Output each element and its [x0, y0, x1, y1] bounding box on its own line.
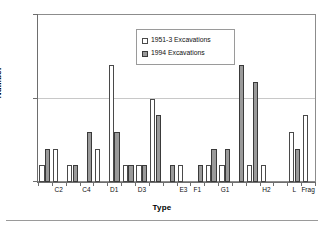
- x-tick-D2: [135, 182, 136, 186]
- bar-group: [107, 15, 121, 182]
- x-tick-label-H2: H2: [262, 187, 270, 194]
- legend-swatch-icon-series-1: [142, 51, 148, 57]
- x-tick-G1: [232, 182, 233, 186]
- bar-group: [66, 15, 80, 182]
- x-tick-F1: [204, 182, 205, 186]
- legend-swatch-icon-series-0: [142, 38, 148, 44]
- bar-E1-series-1: [156, 115, 161, 182]
- bar-D3-series-0: [136, 165, 141, 182]
- x-tick-origin: [38, 182, 39, 186]
- x-tick-label-C2: C2: [55, 187, 63, 194]
- legend-item-1994-excavations: 1994 Excavations: [142, 47, 229, 60]
- bar-L-series-1: [295, 149, 300, 182]
- bar-E1-series-0: [150, 99, 155, 183]
- bar-C3-series-0: [67, 165, 72, 182]
- bar-D2-series-0: [123, 165, 128, 182]
- bar-C1-series-1: [45, 149, 50, 182]
- x-tick-C2: [66, 182, 67, 186]
- y-tick-10: [33, 14, 37, 15]
- bar-group: [287, 15, 301, 182]
- bar-D1-series-0: [109, 65, 114, 182]
- x-tick-E2: [177, 182, 178, 186]
- x-tick-C4: [93, 182, 94, 186]
- x-tick-C5: [107, 182, 108, 186]
- x-tick-label-G1: G1: [221, 187, 230, 194]
- footer-divider: [6, 220, 318, 221]
- x-axis-title: Type: [0, 203, 324, 212]
- bar-G2-series-1: [239, 65, 244, 182]
- bar-C1-series-0: [39, 165, 44, 182]
- x-tick-label-D3: D3: [138, 187, 146, 194]
- bar-group: [80, 15, 94, 182]
- x-tick-label-L: L: [292, 187, 296, 194]
- bar-F2-series-1: [211, 149, 216, 182]
- bar-group: [38, 15, 52, 182]
- x-tick-H1: [260, 182, 261, 186]
- x-tick-label-Frag: Frag: [301, 187, 314, 194]
- bar-D2-series-1: [128, 165, 133, 182]
- bar-H1-series-0: [247, 165, 252, 182]
- bar-D1-series-1: [114, 132, 119, 182]
- bar-group: [93, 15, 107, 182]
- x-tick-D3: [149, 182, 150, 186]
- bar-D3-series-1: [142, 165, 147, 182]
- x-tick-container: [38, 182, 315, 187]
- bar-E3-series-0: [178, 165, 183, 182]
- y-axis-title: Number: [0, 67, 3, 98]
- x-tick-Frag: [315, 182, 316, 186]
- x-tick-H2: [273, 182, 274, 186]
- x-tick-C1: [52, 182, 53, 186]
- bar-group: [246, 15, 260, 182]
- bar-group: [52, 15, 66, 182]
- legend: 1951-3 Excavations 1994 Excavations: [136, 29, 235, 65]
- bar-G1-series-1: [225, 149, 230, 182]
- y-tick-5: [33, 98, 37, 99]
- x-tick-E3: [190, 182, 191, 186]
- bar-C4-series-1: [87, 132, 92, 182]
- bar-group: [273, 15, 287, 182]
- bar-group: [121, 15, 135, 182]
- x-tick-label-C4: C4: [82, 187, 90, 194]
- legend-label-series-1: 1994 Excavations: [151, 50, 205, 57]
- x-tick-D1: [121, 182, 122, 186]
- x-tick-C3: [80, 182, 81, 186]
- x-tick-H3: [287, 182, 288, 186]
- bar-group: [260, 15, 274, 182]
- x-tick-label-D1: D1: [110, 187, 118, 194]
- bar-L-series-0: [289, 132, 294, 182]
- bar-C5-series-0: [95, 149, 100, 182]
- bar-F2-series-0: [206, 165, 211, 182]
- x-tick-G2: [246, 182, 247, 186]
- legend-item-1951-3-excavations: 1951-3 Excavations: [142, 34, 229, 47]
- bar-F1-series-1: [198, 165, 203, 182]
- legend-label-series-0: 1951-3 Excavations: [151, 37, 211, 44]
- bar-chart: 10 5 0 Number C2C4D1D3E3F1G1H2LFrag Type…: [0, 0, 324, 232]
- bar-Frag-series-0: [303, 115, 308, 182]
- x-tick-F2: [218, 182, 219, 186]
- bar-H1-series-1: [253, 82, 258, 182]
- bar-group: [301, 15, 315, 182]
- bar-E2-series-1: [170, 165, 175, 182]
- bar-G1-series-0: [219, 165, 224, 182]
- x-tick-label-E3: E3: [179, 187, 187, 194]
- x-tick-E1: [163, 182, 164, 186]
- bar-C2-series-0: [53, 149, 58, 182]
- bar-H2-series-0: [261, 165, 266, 182]
- bar-C3-series-1: [73, 165, 78, 182]
- x-tick-label-F1: F1: [193, 187, 201, 194]
